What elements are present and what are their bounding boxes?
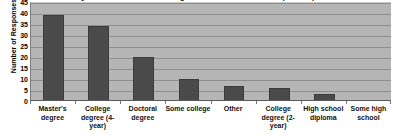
bar (43, 15, 64, 101)
x-tick (165, 101, 166, 104)
x-axis-label: Some high school (346, 105, 391, 122)
x-axis-category-labels: Master's degreeCollege degree (4-year)Do… (30, 105, 391, 136)
x-axis-label: College degree (2-year) (256, 105, 301, 131)
x-tick (120, 101, 121, 104)
bar (88, 26, 109, 101)
bar (179, 79, 200, 101)
y-axis-tick-labels: 454035302520151050 (12, 2, 28, 101)
y-tick-label: 35 (12, 21, 28, 28)
x-tick (75, 101, 76, 104)
y-tick-label: 5 (12, 87, 28, 94)
x-tick (211, 101, 212, 104)
bars-group (31, 3, 391, 101)
y-tick-label: 20 (12, 54, 28, 61)
y-tick-label: 15 (12, 65, 28, 72)
x-axis-label: Some college (165, 105, 210, 114)
bar (133, 57, 154, 101)
x-axis-label: College degree (4-year) (75, 105, 120, 131)
x-axis-label: Other (211, 105, 256, 114)
x-tick (256, 101, 257, 104)
y-tick-label: 40 (12, 10, 28, 17)
y-tick-label: 45 (12, 0, 28, 6)
x-tick (390, 101, 391, 104)
bar (224, 86, 245, 101)
x-tick (301, 101, 302, 104)
x-axis-ticks (30, 101, 391, 104)
x-axis-label: High school diploma (301, 105, 346, 122)
plot-area (30, 2, 391, 101)
x-tick (30, 101, 31, 104)
y-tick-label: 25 (12, 43, 28, 50)
bar-chart-figure: Question 1: What is the highest level of… (0, 0, 393, 136)
x-axis-label: Doctoral degree (120, 105, 165, 122)
x-axis-label: Master's degree (30, 105, 75, 122)
y-tick-label: 0 (12, 98, 28, 105)
y-tick-label: 30 (12, 32, 28, 39)
y-tick-label: 10 (12, 76, 28, 83)
x-tick (346, 101, 347, 104)
